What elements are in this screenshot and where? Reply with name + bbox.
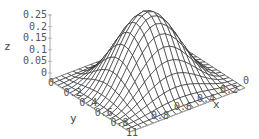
- z-tick-label: 0.15: [23, 32, 47, 43]
- x-tick-label: 0.8: [151, 110, 169, 121]
- x-tick-label: 0.2: [220, 84, 238, 95]
- x-tick-label: 0.6: [174, 101, 192, 112]
- surface-mesh: [50, 11, 245, 132]
- y-tick-label: 0: [48, 77, 54, 88]
- z-tick-label: 0.25: [23, 9, 47, 20]
- x-tick-label: 0: [243, 75, 249, 86]
- z-tick-label: 0.1: [29, 44, 47, 55]
- surface-plot: 00.050.10.150.20.25 00.20.40.60.81 00.20…: [0, 0, 259, 139]
- z-tick-label: 0.2: [29, 21, 47, 32]
- z-tick-label: 0: [41, 67, 47, 78]
- z-axis-ticks: 00.050.10.150.20.25: [23, 9, 52, 78]
- y-axis-label: y: [70, 112, 77, 125]
- x-axis-label: x: [213, 98, 220, 111]
- z-tick-label: 0.05: [23, 55, 47, 66]
- x-tick-label: 1: [132, 127, 138, 138]
- z-axis-label: z: [4, 40, 11, 53]
